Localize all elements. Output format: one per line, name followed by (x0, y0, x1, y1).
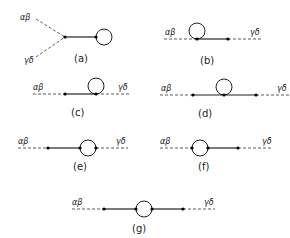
vertex-dot (254, 93, 257, 96)
vertex-dot (134, 207, 137, 210)
diagram-caption: (b) (200, 55, 214, 66)
diagram-caption: (a) (74, 53, 88, 64)
external-label-in: αβ (161, 84, 171, 93)
diagram-caption: (e) (73, 161, 87, 172)
external-label-in: αβ (33, 83, 43, 92)
vertex-dot (222, 93, 225, 96)
external-label-out: γδ (24, 56, 34, 65)
vertex-dot (94, 146, 97, 149)
external-label-in: αβ (165, 28, 175, 37)
diagram-a: αβ γδ (a) (20, 13, 112, 65)
external-label-out: γδ (277, 84, 287, 93)
vertex-dot (191, 93, 194, 96)
bubble-loop (192, 140, 208, 156)
self-energy-loop (216, 79, 232, 95)
external-label-in: αβ (20, 13, 30, 22)
bubble-loop (136, 201, 152, 217)
vertex-dot (190, 146, 193, 149)
diagram-b: αβ γδ (b) (164, 23, 262, 66)
vertex-dot (181, 207, 184, 210)
diagram-d: αβ γδ (d) (160, 79, 290, 119)
external-label-out: γδ (204, 198, 214, 207)
tadpole-loop (96, 29, 112, 45)
external-label-out: γδ (250, 28, 260, 37)
vertex-dot (195, 37, 198, 40)
external-dashed-line (36, 19, 65, 37)
self-energy-loop (189, 23, 205, 39)
vertex-dot (150, 207, 153, 210)
diagram-c: αβ γδ (c) (33, 78, 130, 118)
vertex-dot (206, 146, 209, 149)
diagram-caption: (c) (71, 107, 84, 118)
bubble-loop (80, 140, 96, 156)
vertex-dot (63, 35, 66, 38)
diagram-e: αβ γδ (e) (18, 137, 128, 172)
vertex-dot (78, 146, 81, 149)
diagram-caption: (d) (198, 108, 212, 119)
vertex-dot (63, 92, 66, 95)
vertex-dot (94, 35, 97, 38)
external-label-in: αβ (72, 198, 82, 207)
vertex-dot (236, 146, 239, 149)
diagram-g: αβ γδ (g) (72, 198, 215, 234)
vertex-dot (94, 92, 97, 95)
external-label-in: αβ (18, 137, 28, 146)
diagram-f: αβ γδ (f) (160, 137, 272, 172)
vertex-dot (102, 207, 105, 210)
external-dashed-line (36, 37, 65, 57)
diagram-caption: (f) (198, 161, 209, 172)
self-energy-loop (88, 78, 104, 94)
external-label-out: γδ (116, 137, 126, 146)
diagram-caption: (g) (132, 223, 146, 234)
vertex-dot (226, 37, 229, 40)
external-label-in: αβ (160, 137, 170, 146)
vertex-dot (46, 146, 49, 149)
feynman-diagram-figure: αβ γδ (a) αβ γδ (b) αβ γδ (c) αβ γδ (0, 0, 290, 238)
external-label-out: γδ (262, 137, 272, 146)
external-label-out: γδ (118, 83, 128, 92)
